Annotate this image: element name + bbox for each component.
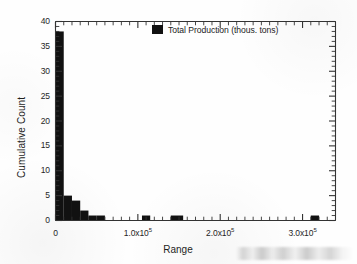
legend-label-total-production: Total Production (thous. tons) — [168, 25, 278, 35]
y-axis-title: Cumulative Count — [16, 97, 27, 178]
histogram-plot — [0, 0, 357, 264]
tick-group — [56, 22, 336, 221]
y-tick-label: 40 — [28, 16, 50, 26]
y-tick-label: 0 — [28, 215, 50, 225]
legend-swatch-total-production — [152, 25, 163, 34]
x-tick-label: 3.0x105 — [279, 228, 327, 238]
plot-frame — [56, 22, 336, 221]
x-tick-label: 0 — [32, 228, 80, 238]
y-tick-label: 35 — [28, 41, 50, 51]
bar — [311, 216, 319, 221]
y-tick-label: 30 — [28, 66, 50, 76]
y-tick-label: 5 — [28, 190, 50, 200]
x-tick-label: 1.0x105 — [114, 228, 162, 238]
y-tick-label: 20 — [28, 116, 50, 126]
x-tick-label: 2.0x105 — [196, 228, 244, 238]
bar-group — [56, 31, 320, 220]
x-axis-title: Range — [163, 244, 192, 255]
bar — [64, 196, 72, 221]
bar — [171, 216, 183, 221]
bar — [88, 216, 96, 221]
chart-figure: 0510152025303540 01.0x1052.0x1053.0x105 … — [0, 0, 357, 264]
y-tick-label: 15 — [28, 140, 50, 150]
bar — [72, 201, 80, 221]
y-tick-label: 25 — [28, 91, 50, 101]
bar — [80, 211, 88, 221]
bar — [97, 216, 105, 221]
y-tick-label: 10 — [28, 165, 50, 175]
